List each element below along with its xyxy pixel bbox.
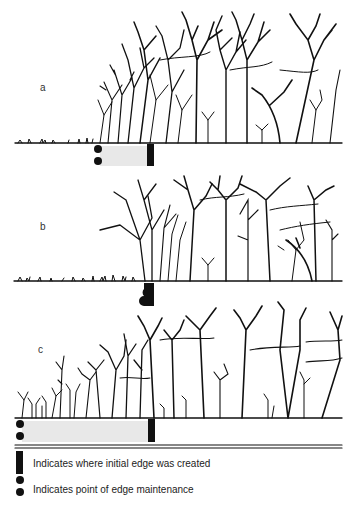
legend-edge-bar-icon bbox=[16, 451, 23, 474]
legend-maintenance-dot-icon bbox=[16, 476, 24, 484]
forest-edge-diagram bbox=[0, 0, 355, 515]
panel-a-trees bbox=[15, 12, 342, 143]
panel-b-trees bbox=[14, 176, 342, 281]
panel-c-trees bbox=[15, 302, 342, 418]
legend-edge-created: Indicates where initial edge was created bbox=[33, 458, 210, 469]
legend-edge-maintenance: Indicates point of edge maintenance bbox=[33, 484, 194, 495]
